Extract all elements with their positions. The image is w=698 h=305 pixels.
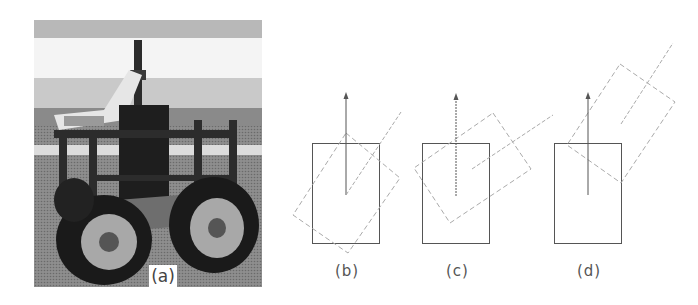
rotated-heading-arrow — [346, 112, 401, 195]
panel-label-c: (c) — [446, 262, 469, 280]
panel-d-diagram — [555, 43, 676, 244]
panel-c-diagram — [414, 93, 553, 244]
pose-diagrams — [0, 0, 698, 305]
rotated-heading-arrow — [472, 115, 553, 169]
heading-arrowhead-icon — [344, 92, 349, 99]
panel-b-diagram — [293, 92, 401, 253]
rotated-heading-arrow — [621, 43, 673, 124]
heading-arrowhead-icon — [586, 92, 591, 99]
rotated-pose-rect — [414, 113, 531, 223]
heading-arrowhead-icon — [454, 93, 459, 100]
panel-label-d: (d) — [577, 262, 601, 280]
panel-label-b: (b) — [335, 262, 359, 280]
